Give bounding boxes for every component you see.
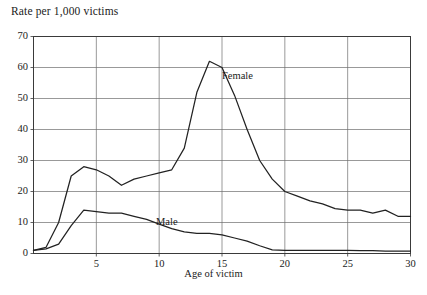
line-chart-plot (0, 0, 427, 295)
series-label-male: Male (156, 216, 178, 227)
y-tick-label: 50 (0, 93, 28, 104)
y-tick-label: 20 (0, 186, 28, 197)
y-tick-label: 10 (0, 217, 28, 228)
y-tick-label: 0 (0, 248, 28, 259)
series-label-female: Female (222, 70, 253, 81)
y-tick-label: 40 (0, 124, 28, 135)
y-tick-label: 30 (0, 155, 28, 166)
y-tick-label: 60 (0, 62, 28, 73)
chart-figure: Rate per 1,000 victims 010203040506070 5… (0, 0, 427, 295)
plot-frame (31, 37, 411, 257)
y-tick-label: 70 (0, 31, 28, 42)
x-axis-title: Age of victim (0, 268, 427, 279)
